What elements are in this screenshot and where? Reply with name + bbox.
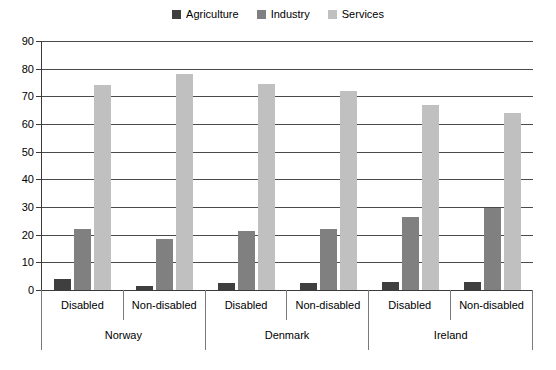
y-tick-label-10: 10 xyxy=(22,257,34,268)
bar-services-2 xyxy=(258,84,275,290)
bars-layer xyxy=(42,41,533,290)
y-tick-label-90: 90 xyxy=(22,36,34,47)
category-axis: DisabledNon-disabledDisabledNon-disabled… xyxy=(41,290,533,350)
bar-industry-2 xyxy=(238,231,255,290)
bar-services-0 xyxy=(94,85,111,290)
subcategory-label-0: Disabled xyxy=(41,290,123,320)
subcategory-row: DisabledNon-disabledDisabledNon-disabled… xyxy=(41,290,533,320)
subcategory-label-2: Disabled xyxy=(205,290,287,320)
tick-mark-20 xyxy=(36,235,41,236)
legend-label-industry: Industry xyxy=(271,9,310,20)
legend-item-agriculture: Agriculture xyxy=(172,9,239,20)
bar-services-4 xyxy=(422,105,439,290)
tick-mark-40 xyxy=(36,179,41,180)
bar-industry-3 xyxy=(320,229,337,290)
bar-cluster xyxy=(206,41,288,290)
y-tick-label-40: 40 xyxy=(22,174,34,185)
y-tick-label-0: 0 xyxy=(28,285,34,296)
y-tick-label-50: 50 xyxy=(22,146,34,157)
y-tick-label-80: 80 xyxy=(22,63,34,74)
bar-industry-1 xyxy=(156,239,173,290)
bar-cluster xyxy=(451,41,533,290)
bar-cluster xyxy=(42,41,124,290)
legend-label-services: Services xyxy=(342,9,384,20)
tick-mark-80 xyxy=(36,69,41,70)
bar-services-3 xyxy=(340,91,357,290)
bar-agriculture-5 xyxy=(464,282,481,290)
plot-area-wrapper xyxy=(41,41,533,290)
bar-cluster xyxy=(369,41,451,290)
subcategory-label-3: Non-disabled xyxy=(286,290,368,320)
bar-services-1 xyxy=(176,74,193,290)
legend-label-agriculture: Agriculture xyxy=(186,9,239,20)
legend-swatch-agriculture xyxy=(172,10,181,19)
group-row: NorwayDenmarkIreland xyxy=(41,320,533,350)
chart-legend: Agriculture Industry Services xyxy=(0,4,556,24)
bar-agriculture-2 xyxy=(218,283,235,290)
subcategory-label-5: Non-disabled xyxy=(450,290,533,320)
y-tick-label-30: 30 xyxy=(22,202,34,213)
bar-agriculture-0 xyxy=(54,279,71,290)
y-tick-label-70: 70 xyxy=(22,91,34,102)
bar-industry-0 xyxy=(74,229,91,290)
y-tick-label-20: 20 xyxy=(22,229,34,240)
tick-mark-10 xyxy=(36,262,41,263)
tick-mark-50 xyxy=(36,152,41,153)
subcategory-label-1: Non-disabled xyxy=(123,290,205,320)
bar-cluster xyxy=(287,41,369,290)
group-label-denmark: Denmark xyxy=(205,320,369,350)
bar-industry-4 xyxy=(402,217,419,290)
bar-cluster xyxy=(124,41,206,290)
plot-area xyxy=(41,41,533,290)
legend-item-industry: Industry xyxy=(257,9,310,20)
bar-industry-5 xyxy=(484,208,501,290)
bar-agriculture-3 xyxy=(300,283,317,290)
bar-agriculture-4 xyxy=(382,282,399,290)
y-tick-label-60: 60 xyxy=(22,119,34,130)
subcategory-label-4: Disabled xyxy=(368,290,450,320)
legend-swatch-industry xyxy=(257,10,266,19)
tick-mark-60 xyxy=(36,124,41,125)
tick-mark-70 xyxy=(36,96,41,97)
y-axis-tick-labels: 9080706050403020100 xyxy=(12,41,34,290)
bar-services-5 xyxy=(504,113,521,290)
legend-item-services: Services xyxy=(328,9,384,20)
tick-mark-30 xyxy=(36,207,41,208)
group-label-ireland: Ireland xyxy=(368,320,533,350)
group-label-norway: Norway xyxy=(41,320,205,350)
legend-swatch-services xyxy=(328,10,337,19)
tick-mark-90 xyxy=(36,41,41,42)
bar-chart: Agriculture Industry Services 9080706050… xyxy=(0,0,556,370)
